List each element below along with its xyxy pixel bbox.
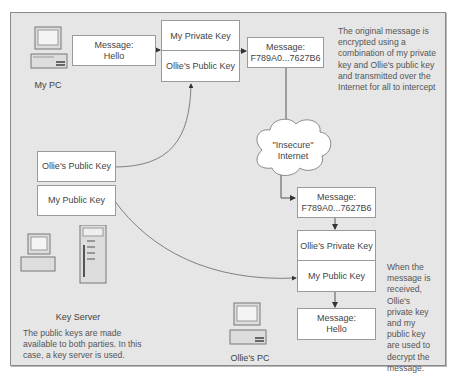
note-line: The original message is xyxy=(338,26,442,37)
note-line: and my xyxy=(387,318,443,329)
encryption-note: The original message is encrypted using … xyxy=(338,26,442,93)
note-line: The public keys are made xyxy=(23,328,153,339)
cloud-line: "Insecure" xyxy=(258,140,328,151)
ollies-public-key: Ollie's Public Key xyxy=(162,51,239,81)
note-line: Internet for all to intercept xyxy=(338,82,442,93)
note-line: message is xyxy=(387,273,443,284)
note-line: available to both parties. In this xyxy=(23,339,153,350)
note-line: combination of my private xyxy=(338,48,442,59)
decrypted-message-box: Message: Hello xyxy=(297,308,376,340)
note-line: message. xyxy=(387,363,443,374)
message-title: Message: xyxy=(317,192,356,203)
my-pc-icon xyxy=(30,26,68,72)
note-line: When the xyxy=(387,262,443,273)
ollies-pc-label: Ollie's PC xyxy=(225,353,275,363)
message-title: Message: xyxy=(317,313,356,324)
my-pc-label: My PC xyxy=(30,80,66,90)
note-line: private key xyxy=(387,307,443,318)
my-public-key-box: My Public Key xyxy=(37,185,116,216)
decryption-note: When the message is received, Ollie's pr… xyxy=(387,262,443,374)
cloud-label: "Insecure" Internet xyxy=(258,140,328,162)
message-title: Message: xyxy=(94,40,133,51)
ollies-public-key-box: Ollie's Public Key xyxy=(37,151,116,182)
note-line: encrypted using a xyxy=(338,37,442,48)
message-title: Message: xyxy=(266,42,305,53)
cloud-line: Internet xyxy=(258,151,328,162)
ollies-private-key: Ollie's Private Key xyxy=(298,231,375,261)
encryption-keys-box: My Private Key Ollie's Public Key xyxy=(161,20,240,82)
decryption-keys-box: Ollie's Private Key My Public Key xyxy=(297,230,376,292)
my-public-key: My Public Key xyxy=(298,261,375,291)
note-line: decrypt the xyxy=(387,352,443,363)
note-line: and transmitted over the xyxy=(338,71,442,82)
note-line: public key xyxy=(387,329,443,340)
key-server-icon xyxy=(20,225,120,285)
message-body: Hello xyxy=(104,51,125,62)
note-line: Ollie's xyxy=(387,296,443,307)
message-body: F789A0...7627B6 xyxy=(250,53,320,64)
key-server-note: The public keys are made available to bo… xyxy=(23,328,153,362)
encrypted-message-box: Message: F789A0...7627B6 xyxy=(247,37,324,68)
note-line: key and Ollie's public key xyxy=(338,60,442,71)
message-body: Hello xyxy=(326,324,347,335)
note-line: received, xyxy=(387,284,443,295)
my-private-key: My Private Key xyxy=(162,21,239,51)
ollies-pc-icon xyxy=(229,302,267,348)
note-line: case, a key server is used. xyxy=(23,350,153,361)
note-line: are used to xyxy=(387,340,443,351)
received-encrypted-box: Message: F789A0...7627B6 xyxy=(297,187,376,218)
message-body: F789A0...7627B6 xyxy=(301,203,371,214)
message-hello-box: Message: Hello xyxy=(72,35,156,66)
key-server-label: Key Server xyxy=(48,312,108,322)
